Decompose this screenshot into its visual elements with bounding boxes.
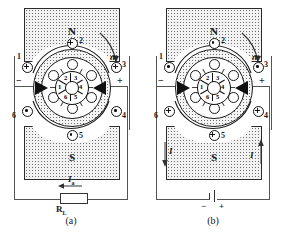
- armature-current-sub-a: a: [72, 180, 75, 186]
- panel-b: N S 1: [142, 0, 284, 232]
- caption-a: (a): [0, 215, 142, 226]
- supply-current-label-b-right: I: [250, 150, 254, 160]
- current-arrow-svg-b: [142, 0, 284, 232]
- panel-a: N S: [0, 0, 142, 232]
- battery-negative-plate-b: [209, 193, 210, 199]
- battery-minus-label-b: −: [201, 202, 206, 211]
- supply-current-label-b-left: I: [169, 146, 173, 156]
- caption-b: (b): [142, 215, 284, 226]
- armature-current-label-a: Ia: [68, 174, 75, 186]
- battery-positive-plate-b: [214, 190, 215, 202]
- figure-root: N S: [0, 0, 284, 232]
- battery-plus-label-b: +: [219, 202, 224, 211]
- load-resistor-a: [60, 193, 88, 204]
